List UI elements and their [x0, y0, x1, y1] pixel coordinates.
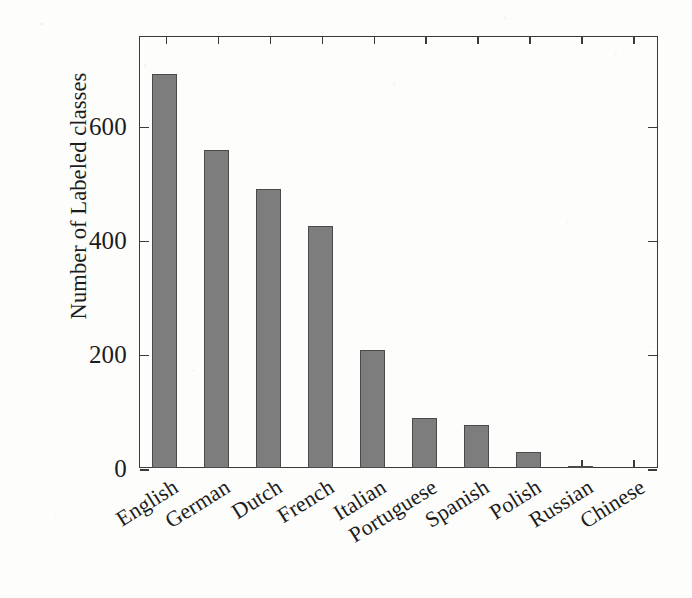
- x-axis-tick-mark-top: [529, 37, 531, 44]
- x-axis-tick-mark: [581, 460, 583, 467]
- x-axis-tick-mark: [374, 460, 376, 467]
- x-axis-tick-mark: [425, 460, 427, 467]
- x-axis-tick-mark: [322, 460, 324, 467]
- x-axis-tick-mark: [166, 460, 168, 467]
- x-axis-tick-labels: EnglishGermanDutchFrenchItalianPortugues…: [139, 468, 658, 598]
- plot-area-frame: [139, 36, 658, 468]
- x-axis-tick-mark-top: [425, 37, 427, 44]
- y-axis-tick-label: 400: [89, 227, 127, 252]
- x-axis-tick-mark-top: [166, 37, 168, 44]
- y-axis-tick-mark-right: [648, 127, 657, 129]
- x-axis-tick-mark-top: [581, 37, 583, 44]
- x-axis-tick-mark: [270, 460, 272, 467]
- y-axis-tick-mark-right: [648, 355, 657, 357]
- y-axis-tick-mark: [140, 241, 149, 243]
- x-axis-tick-mark-top: [218, 37, 220, 44]
- y-axis-tick-labels: 0200400600: [55, 36, 127, 468]
- y-axis-tick-mark: [140, 355, 149, 357]
- x-axis-tick-mark-top: [374, 37, 376, 44]
- y-axis-tick-label: 600: [89, 113, 127, 138]
- bar-chart-figure: Number of Labeled classes 0200400600 Eng…: [0, 0, 692, 598]
- y-axis-tick-label: 200: [89, 341, 127, 366]
- x-axis-tick-mark-top: [477, 37, 479, 44]
- y-axis-tick-mark: [140, 127, 149, 129]
- x-axis-tick-mark-top: [322, 37, 324, 44]
- x-axis-tick-mark: [633, 460, 635, 467]
- x-axis-tick-mark: [218, 460, 220, 467]
- y-axis-tick-mark-right: [648, 241, 657, 243]
- x-axis-tick-mark: [529, 460, 531, 467]
- y-axis-tick-label: 0: [114, 456, 127, 481]
- x-axis-tick-mark-top: [633, 37, 635, 44]
- x-axis-tick-mark-top: [270, 37, 272, 44]
- x-axis-tick-mark: [477, 460, 479, 467]
